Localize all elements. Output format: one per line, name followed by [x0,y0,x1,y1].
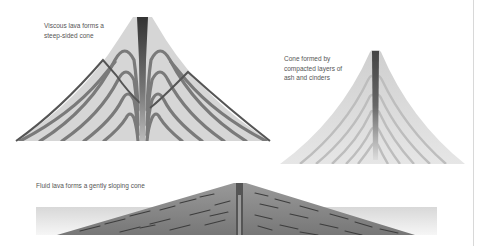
page-divider [473,0,474,246]
cinder-cone-label: Cone formed by compacted layers of ash a… [284,54,342,83]
shield-volcano-illustration [36,183,437,235]
fluid-lava-label: Fluid lava forms a gently sloping cone [36,181,145,191]
viscous-lava-label: Viscous lava forms a steep-sided cone [44,21,104,40]
